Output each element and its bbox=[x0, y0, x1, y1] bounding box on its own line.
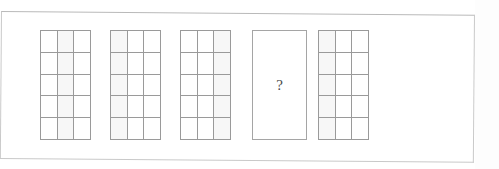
grid-cell bbox=[58, 75, 75, 97]
puzzle-panel-4-missing[interactable]: ? bbox=[252, 30, 307, 140]
grid-cell bbox=[336, 75, 353, 97]
grid-cell bbox=[352, 96, 369, 118]
grid-cell bbox=[198, 75, 215, 97]
grid-cell bbox=[111, 96, 128, 118]
grid-cell bbox=[74, 118, 91, 140]
grid-cell bbox=[336, 96, 353, 118]
grid-cell bbox=[58, 53, 75, 75]
grid-cell bbox=[111, 118, 128, 140]
grid-cell bbox=[319, 118, 336, 140]
grid-cell bbox=[336, 53, 353, 75]
grid-cell bbox=[58, 118, 75, 140]
grid-cell bbox=[144, 75, 161, 97]
figure-root: ? bbox=[0, 0, 499, 169]
grid-cell bbox=[214, 53, 231, 75]
grid-cell bbox=[319, 53, 336, 75]
grid-cell bbox=[214, 118, 231, 140]
grid-cell bbox=[111, 31, 128, 53]
grid-cell bbox=[198, 53, 215, 75]
grid-cell bbox=[319, 96, 336, 118]
panel-row: ? bbox=[0, 0, 499, 169]
grid-cell bbox=[128, 118, 145, 140]
grid-cell bbox=[181, 96, 198, 118]
grid-cell bbox=[74, 31, 91, 53]
grid-cell bbox=[41, 118, 58, 140]
grid-cell bbox=[128, 96, 145, 118]
grid-cell bbox=[214, 31, 231, 53]
grid-cell bbox=[352, 31, 369, 53]
grid-cell bbox=[319, 75, 336, 97]
grid-cell bbox=[198, 96, 215, 118]
grid-cell bbox=[74, 53, 91, 75]
grid-cell bbox=[214, 96, 231, 118]
grid-cell bbox=[144, 96, 161, 118]
grid-cell bbox=[352, 75, 369, 97]
grid-cell bbox=[128, 31, 145, 53]
grid-cell bbox=[181, 31, 198, 53]
puzzle-panel-5[interactable] bbox=[318, 30, 369, 140]
grid-cell bbox=[198, 31, 215, 53]
grid-cell bbox=[336, 31, 353, 53]
grid-cell bbox=[214, 75, 231, 97]
puzzle-panel-3[interactable] bbox=[180, 30, 231, 140]
grid-cell bbox=[128, 75, 145, 97]
grid-cell bbox=[319, 31, 336, 53]
grid-cell bbox=[111, 75, 128, 97]
grid-cell bbox=[181, 53, 198, 75]
puzzle-panel-2[interactable] bbox=[110, 30, 161, 140]
grid-cell bbox=[352, 53, 369, 75]
grid-cell bbox=[198, 118, 215, 140]
grid-cell bbox=[181, 75, 198, 97]
grid-cell bbox=[58, 96, 75, 118]
puzzle-panel-1[interactable] bbox=[40, 30, 91, 140]
grid-cell bbox=[74, 75, 91, 97]
grid-cell bbox=[144, 53, 161, 75]
grid-cell bbox=[41, 75, 58, 97]
missing-answer-marker: ? bbox=[276, 78, 283, 93]
grid-cell bbox=[181, 118, 198, 140]
grid-cell bbox=[352, 118, 369, 140]
grid-cell bbox=[111, 53, 128, 75]
grid-cell bbox=[41, 31, 58, 53]
grid-cell bbox=[41, 53, 58, 75]
grid-cell bbox=[144, 31, 161, 53]
grid-cell bbox=[58, 31, 75, 53]
grid-cell bbox=[336, 118, 353, 140]
grid-cell bbox=[144, 118, 161, 140]
grid-cell bbox=[41, 96, 58, 118]
grid-cell bbox=[74, 96, 91, 118]
grid-cell bbox=[128, 53, 145, 75]
